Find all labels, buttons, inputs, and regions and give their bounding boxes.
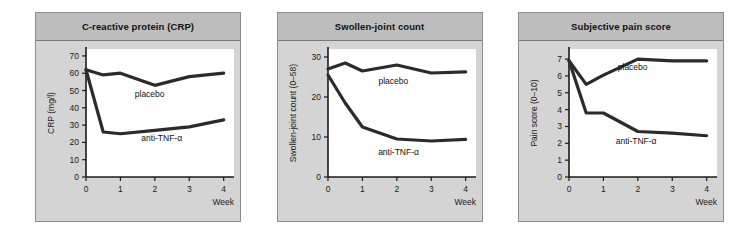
panel-plot-area: 01020304050607001234WeekCRP (mg/l)placeb… xyxy=(36,41,240,221)
series-annotation: placebo xyxy=(135,89,165,99)
y-tick-label: 0 xyxy=(557,172,562,182)
figure-root: C-reactive protein (CRP) 010203040506070… xyxy=(0,0,740,243)
y-tick-label: 10 xyxy=(70,155,80,165)
series-annotation: anti-TNF-α xyxy=(378,147,419,157)
y-tick-label: 70 xyxy=(70,51,80,61)
panel-title: C-reactive protein (CRP) xyxy=(82,21,194,32)
y-tick-label: 50 xyxy=(70,86,80,96)
panel-header: Swollen-joint count xyxy=(278,13,482,41)
x-tick-label: 0 xyxy=(325,184,330,194)
x-tick-label: 2 xyxy=(635,184,640,194)
chart-panel-crp: C-reactive protein (CRP) 010203040506070… xyxy=(35,12,241,222)
y-tick-label: 30 xyxy=(311,52,321,62)
plot-background xyxy=(328,49,476,177)
x-tick-label: 2 xyxy=(152,184,157,194)
x-tick-label: 0 xyxy=(84,184,89,194)
y-tick-label: 0 xyxy=(74,172,79,182)
x-tick-label: 4 xyxy=(221,184,226,194)
panel-plot-area: 010203001234WeekSwollen-joint count (0–5… xyxy=(278,41,482,221)
x-tick-label: 0 xyxy=(567,184,572,194)
line-chart-pain-score: 0123456701234WeekPain score (0–10)placeb… xyxy=(519,41,723,221)
line-chart-crp: 01020304050607001234WeekCRP (mg/l)placeb… xyxy=(36,41,240,221)
series-annotation: placebo xyxy=(618,62,648,72)
y-tick-label: 7 xyxy=(557,54,562,64)
series-annotation: placebo xyxy=(378,76,408,86)
y-tick-label: 0 xyxy=(316,172,321,182)
y-tick-label: 4 xyxy=(557,105,562,115)
x-axis-title: Week xyxy=(212,197,234,207)
y-axis-title: CRP (mg/l) xyxy=(46,92,56,134)
y-tick-label: 6 xyxy=(557,71,562,81)
x-tick-label: 3 xyxy=(187,184,192,194)
y-axis-title: Swollen-joint count (0–58) xyxy=(288,64,298,162)
y-tick-label: 1 xyxy=(557,155,562,165)
x-axis-title: Week xyxy=(695,197,717,207)
x-tick-label: 1 xyxy=(360,184,365,194)
x-tick-label: 1 xyxy=(118,184,123,194)
chart-panel-pain-score: Subjective pain score 0123456701234WeekP… xyxy=(518,12,724,222)
y-tick-label: 40 xyxy=(70,103,80,113)
x-tick-label: 4 xyxy=(463,184,468,194)
x-tick-label: 2 xyxy=(394,184,399,194)
y-tick-label: 10 xyxy=(311,132,321,142)
plot-background xyxy=(86,49,234,177)
panel-title: Swollen-joint count xyxy=(335,21,425,32)
series-annotation: anti-TNF-α xyxy=(616,136,657,146)
line-chart-swollen-joint: 010203001234WeekSwollen-joint count (0–5… xyxy=(278,41,482,221)
y-tick-label: 20 xyxy=(70,137,80,147)
x-axis-title: Week xyxy=(454,197,476,207)
x-tick-label: 3 xyxy=(670,184,675,194)
y-tick-label: 3 xyxy=(557,121,562,131)
y-tick-label: 60 xyxy=(70,68,80,78)
y-tick-label: 30 xyxy=(70,120,80,130)
x-tick-label: 1 xyxy=(601,184,606,194)
y-tick-label: 5 xyxy=(557,88,562,98)
panel-header: Subjective pain score xyxy=(519,13,723,41)
chart-panel-swollen-joint: Swollen-joint count 010203001234WeekSwol… xyxy=(277,12,483,222)
panel-plot-area: 0123456701234WeekPain score (0–10)placeb… xyxy=(519,41,723,221)
y-tick-label: 2 xyxy=(557,138,562,148)
x-tick-label: 4 xyxy=(704,184,709,194)
y-tick-label: 20 xyxy=(311,92,321,102)
y-axis-title: Pain score (0–10) xyxy=(529,79,539,146)
x-tick-label: 3 xyxy=(428,184,433,194)
panel-header: C-reactive protein (CRP) xyxy=(36,13,240,41)
panel-title: Subjective pain score xyxy=(571,21,671,32)
series-annotation: anti-TNF-α xyxy=(141,133,182,143)
